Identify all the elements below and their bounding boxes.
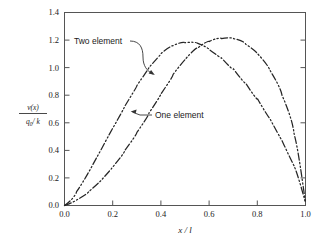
chart-svg: 0.0 0.2 0.4 0.6 0.8 1.0 1.2 1.4 0.0 0.2 … bbox=[0, 0, 326, 246]
annotation-two-element-label: Two element bbox=[74, 36, 123, 46]
x-tick-label-3: 0.6 bbox=[204, 209, 215, 219]
x-tick-label-2: 0.4 bbox=[156, 209, 167, 219]
x-axis-title: x / l bbox=[177, 225, 192, 235]
y-tick-label-3: 0.6 bbox=[48, 118, 59, 128]
x-tick-label-4: 0.8 bbox=[252, 209, 263, 219]
y-axis-denominator: q0/ k bbox=[26, 117, 40, 127]
y-tick-label-6: 1.2 bbox=[48, 35, 59, 45]
x-tick-label-1: 0.2 bbox=[107, 209, 118, 219]
y-tick-label-5: 1.0 bbox=[48, 63, 59, 73]
x-tick-label-5: 1.0 bbox=[300, 209, 311, 219]
y-tick-label-2: 0.4 bbox=[48, 145, 59, 155]
y-tick-label-4: 0.8 bbox=[48, 90, 59, 100]
y-axis-numerator: v(x) bbox=[27, 103, 39, 112]
y-tick-label-7: 1.4 bbox=[48, 7, 59, 17]
y-tick-label-0: 0.0 bbox=[48, 200, 59, 210]
annotation-one-element-label: One element bbox=[155, 110, 204, 120]
x-tick-label-0: 0.0 bbox=[59, 209, 70, 219]
y-denominator-rest: / k bbox=[32, 117, 41, 126]
y-tick-label-1: 0.2 bbox=[48, 173, 59, 183]
chart-figure: 0.0 0.2 0.4 0.6 0.8 1.0 1.2 1.4 0.0 0.2 … bbox=[0, 0, 326, 246]
